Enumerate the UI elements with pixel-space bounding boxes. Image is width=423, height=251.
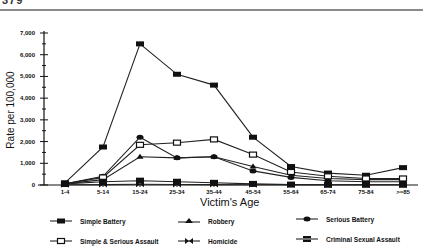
x-axis-title: Victim's Age [200,196,259,208]
legend-label: Criminal Sexual Assault [326,236,400,243]
legend-label: Homicide [208,238,237,245]
open-square-marker [250,152,257,157]
square-marker-icon [50,217,72,225]
legend-item-simple-battery: Simple Battery [50,217,126,225]
y-tick-label: 3,000 [20,117,36,123]
chart-legend: Simple Battery Robbery Serious Battery S… [0,213,423,251]
y-tick-label: 6,000 [20,52,36,58]
y-tick-label: 7,000 [20,30,36,36]
crossed-square-marker [61,181,69,187]
y-tick-label: 1,000 [20,160,36,166]
bowtie-marker-icon [178,237,200,245]
open-square-marker [174,140,181,145]
legend-item-homicide: Homicide [178,237,237,245]
crossed-square-marker [399,182,407,188]
open-square-marker-icon [50,237,72,245]
legend-item-criminal-sexual-assault: Criminal Sexual Assault [296,235,400,243]
legend-item-serious-battery: Serious Battery [296,215,374,223]
x-tick-label: 75-84 [358,189,374,195]
legend-label: Simple & Serious Assault [80,238,159,245]
circle-marker [288,175,295,180]
square-marker [399,165,407,170]
crossed-square-marker [99,179,107,185]
x-tick-label: 15-24 [132,189,148,195]
square-marker [210,83,218,88]
crossed-square-marker [136,178,144,184]
triangle-marker-icon [178,217,200,225]
open-square-marker [325,174,332,179]
x-tick-label: 35-44 [206,189,222,195]
legend-item-simple-serious-assault: Simple & Serious Assault [50,237,159,245]
circle-marker [250,168,257,173]
square-marker [287,164,295,169]
x-tick-label: >=85 [396,189,410,195]
y-tick-label: 0 [32,182,36,188]
open-square-marker [400,176,407,181]
open-square-marker [363,176,370,181]
square-marker [249,135,257,140]
square-marker [99,145,107,150]
open-square-marker [288,169,295,174]
circle-marker [137,135,144,140]
x-tick-label: 65-74 [320,189,336,195]
circle-marker [211,154,218,159]
line-chart: 01,0002,0003,0004,0005,0006,0007,000Rate… [0,0,423,213]
legend-label: Serious Battery [326,216,374,223]
crossed-square-marker [287,182,295,188]
crossed-square-marker [249,181,257,187]
crossed-square-marker [324,182,332,188]
x-tick-label: 45-54 [245,189,261,195]
crossed-square-marker-icon [296,235,318,243]
open-square-marker [137,142,144,147]
square-marker [173,72,181,77]
legend-item-robbery: Robbery [178,217,234,225]
circle-marker [174,155,181,160]
legend-label: Simple Battery [80,218,126,225]
y-axis-title: Rate per 100,000 [5,71,16,149]
y-tick-label: 4,000 [20,95,36,101]
series-line [65,157,403,184]
circle-marker-icon [296,215,318,223]
y-tick-label: 2,000 [20,139,36,145]
crossed-square-marker [173,179,181,185]
series-line [65,137,403,184]
square-marker [136,41,144,46]
crossed-square-marker [362,182,370,188]
y-tick-label: 5,000 [20,73,36,79]
legend-label: Robbery [208,218,234,225]
triangle-marker [137,154,144,159]
x-tick-label: 1-4 [61,189,70,195]
crossed-square-marker [210,180,218,186]
x-tick-label: 55-64 [283,189,299,195]
open-square-marker [211,137,218,142]
x-tick-label: 5-14 [97,189,110,195]
x-tick-label: 25-34 [169,189,185,195]
